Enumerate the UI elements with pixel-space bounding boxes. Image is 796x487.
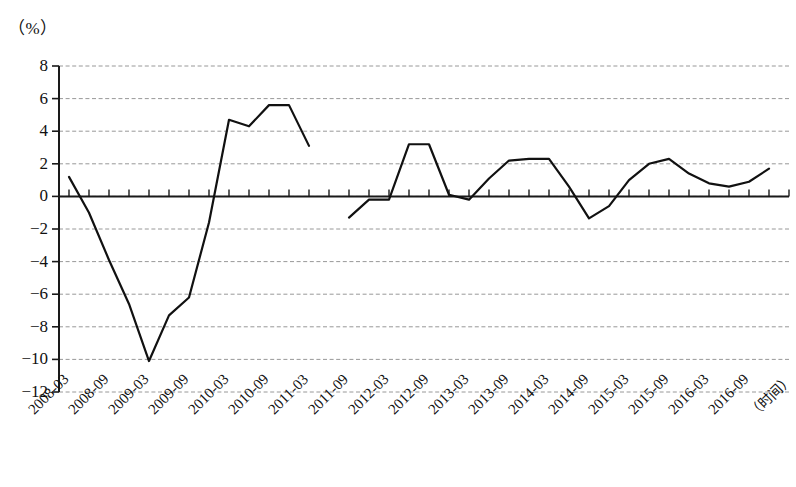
data-line-segment-2	[349, 144, 769, 218]
data-series-group	[69, 105, 769, 361]
y-tick-marks-group	[52, 66, 59, 392]
y-tick-label: 2	[40, 154, 49, 174]
y-tick-label: −6	[30, 284, 48, 304]
y-tick-label: −4	[30, 252, 48, 272]
y-tick-label: 8	[40, 56, 49, 76]
gridlines-group	[59, 66, 789, 392]
y-tick-label: −2	[30, 219, 48, 239]
y-tick-label: −8	[30, 317, 48, 337]
x-tick-marks-group	[69, 189, 789, 196]
chart-figure: （%） 86420−2−4−6−8−10−12 2008-032008-0920…	[0, 0, 796, 487]
y-tick-label: 0	[40, 186, 49, 206]
y-tick-label: 4	[40, 121, 49, 141]
y-axis-unit-label: （%）	[8, 14, 58, 39]
data-line-segment-1	[69, 105, 309, 361]
y-tick-label: −10	[21, 349, 48, 369]
y-tick-label: 6	[40, 89, 49, 109]
